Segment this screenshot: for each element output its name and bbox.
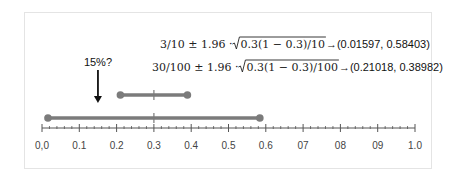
- upper-bound-dot: [184, 91, 192, 99]
- arrowhead-icon: [94, 96, 102, 103]
- tick-label: 0.1: [72, 140, 86, 151]
- tick-label: 08: [335, 140, 347, 151]
- interval-bars: [44, 90, 263, 123]
- number-line-axis: 0,00.10.20.30.40.50.60708091.0: [35, 124, 422, 151]
- formula-2-arrow: →: [339, 61, 350, 73]
- formula-1-arrow: →: [326, 38, 337, 50]
- formula-2-radicand: 0.3(1 − 0.3)/100: [246, 61, 337, 74]
- tick-label: 09: [372, 140, 384, 151]
- formula-1-prefix: 3/10 ± 1.96 ·: [160, 38, 232, 51]
- lower-bound-dot: [44, 114, 52, 122]
- lower-bound-dot: [117, 91, 125, 99]
- tick-label: 0.2: [110, 140, 124, 151]
- formula-row-1: 3/10 ± 1.96 · 0.3(1 − 0.3)/10 → (0.01597…: [160, 37, 430, 51]
- tick-label: 1.0: [408, 140, 422, 151]
- tick-label: 0.4: [184, 140, 198, 151]
- tick-label: 0.3: [147, 140, 161, 151]
- formula-row-2: 30/100 ± 1.96 · 0.3(1 − 0.3)/100 → (0.21…: [152, 60, 443, 74]
- confidence-interval-n=10: [44, 113, 263, 123]
- formula-1-result: (0.01597, 0.58403): [337, 38, 430, 50]
- tick-label: 0.6: [259, 140, 273, 151]
- formula-2-result: (0.21018, 0.38982): [350, 61, 443, 73]
- confidence-interval-diagram: 3/10 ± 1.96 · 0.3(1 − 0.3)/10 → (0.01597…: [0, 0, 456, 182]
- tick-label: 07: [298, 140, 310, 151]
- upper-bound-dot: [256, 114, 264, 122]
- annotation-label: 15%?: [84, 56, 112, 68]
- annotation-15-percent: 15%?: [84, 56, 112, 103]
- formula-1-radicand: 0.3(1 − 0.3)/10: [240, 38, 324, 51]
- tick-label: 0,0: [35, 140, 49, 151]
- tick-label: 0.5: [222, 140, 236, 151]
- confidence-interval-n=100: [117, 90, 192, 100]
- formula-2-prefix: 30/100 ± 1.96 ·: [152, 61, 238, 74]
